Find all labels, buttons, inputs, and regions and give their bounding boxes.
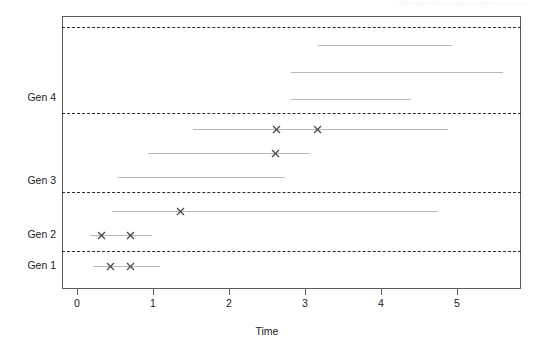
x-axis-tick xyxy=(229,289,230,295)
y-axis-label-gen-4: Gen 4 xyxy=(0,91,56,103)
interval-segment xyxy=(291,72,503,73)
event-x-marker xyxy=(313,125,322,134)
event-x-marker xyxy=(106,262,115,271)
band-separator-4 xyxy=(62,251,521,252)
x-axis-tick-label: 3 xyxy=(293,297,317,309)
x-axis-tick xyxy=(77,289,78,295)
x-axis-tick xyxy=(457,289,458,295)
x-axis-tick-label: 2 xyxy=(217,297,241,309)
y-axis-label-gen-3: Gen 3 xyxy=(0,174,56,186)
event-x-marker xyxy=(126,262,135,271)
interval-segment xyxy=(318,45,453,46)
x-axis-tick-label: 0 xyxy=(65,297,89,309)
interval-segment xyxy=(112,211,438,212)
interval-segment xyxy=(291,99,410,100)
interval-segment xyxy=(118,177,285,178)
band-separator-2 xyxy=(62,113,521,114)
band-separator-1 xyxy=(62,27,521,28)
x-axis-tick xyxy=(381,289,382,295)
x-axis-tick xyxy=(305,289,306,295)
x-axis-tick-label: 5 xyxy=(445,297,469,309)
x-axis-tick-label: 4 xyxy=(369,297,393,309)
band-separator-3 xyxy=(62,192,521,193)
event-x-marker xyxy=(272,125,281,134)
y-axis-label-gen-2: Gen 2 xyxy=(0,228,56,240)
x-axis-tick-label: 1 xyxy=(141,297,165,309)
event-x-marker xyxy=(271,149,280,158)
y-axis-label-gen-1: Gen 1 xyxy=(0,259,56,271)
x-axis-title: Time xyxy=(0,325,534,337)
event-x-marker xyxy=(176,207,185,216)
interval-segment xyxy=(148,153,311,154)
watermark-text: Downloaded from https://academic.oup.com xyxy=(399,0,528,6)
event-x-marker xyxy=(97,231,106,240)
chart-canvas: Downloaded from https://academic.oup.com… xyxy=(0,0,534,353)
event-x-marker xyxy=(126,231,135,240)
x-axis-tick xyxy=(153,289,154,295)
